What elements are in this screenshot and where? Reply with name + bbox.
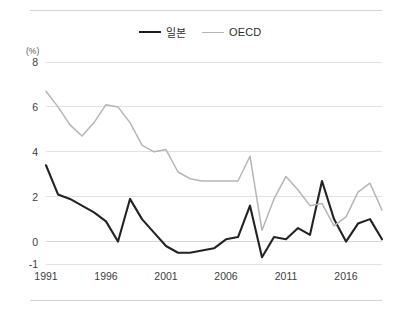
plot-area (46, 62, 382, 264)
x-tick-label-2001: 2001 (154, 270, 177, 282)
top-divider (30, 10, 382, 11)
y-tick-label--1: -1 (16, 258, 38, 270)
x-tick-label-2016: 2016 (334, 270, 357, 282)
series-line-japan (46, 165, 382, 257)
x-tick-label-1991: 1991 (34, 270, 57, 282)
series-group (46, 91, 382, 257)
legend-item-japan: 일본 (139, 24, 186, 40)
plot-svg (46, 62, 382, 264)
legend-item-oecd: OECD (202, 26, 262, 38)
y-axis-unit-label: (%) (26, 46, 39, 56)
x-tick-label-1996: 1996 (94, 270, 117, 282)
line-swatch-icon (139, 31, 161, 33)
chart-legend: 일본 OECD (0, 22, 400, 42)
gridlines-group (46, 62, 382, 264)
y-tick-label-8: 8 (16, 56, 38, 68)
chart-figure: 일본 OECD (%) 86420-1 19911996200120062011… (0, 0, 400, 315)
x-tick-label-2011: 2011 (275, 270, 298, 282)
y-tick-label-4: 4 (16, 146, 38, 158)
x-tick-label-2006: 2006 (214, 270, 237, 282)
line-swatch-icon (202, 32, 224, 33)
y-tick-label-6: 6 (16, 101, 38, 113)
y-tick-label-2: 2 (16, 191, 38, 203)
legend-label-japan: 일본 (166, 24, 186, 40)
legend-label-oecd: OECD (229, 26, 262, 38)
y-tick-label-0: 0 (16, 236, 38, 248)
bottom-divider (30, 300, 382, 301)
